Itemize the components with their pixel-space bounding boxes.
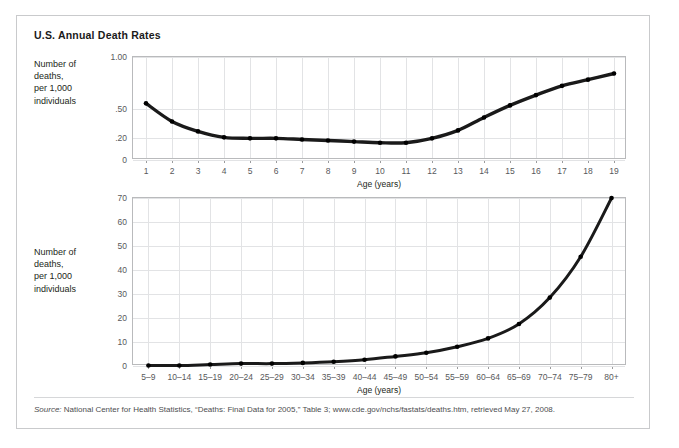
- x-tick-label: 30–34: [291, 372, 315, 382]
- x-tick-label: 6: [274, 166, 279, 176]
- data-point-marker: [393, 354, 398, 359]
- data-point-marker: [362, 357, 367, 362]
- data-point-marker: [609, 196, 614, 201]
- x-tick-label: 10–14: [167, 372, 191, 382]
- x-tick-label: 60–64: [476, 372, 500, 382]
- x-tick-label: 45–49: [384, 372, 408, 382]
- data-point-marker: [331, 359, 336, 364]
- data-point-marker: [301, 361, 306, 366]
- data-point-marker: [586, 77, 591, 82]
- x-axis-title-bottom: Age (years): [132, 385, 626, 395]
- y-tick-label: 20: [93, 313, 127, 323]
- data-point-marker: [486, 336, 491, 341]
- y-tick-label: 0: [93, 361, 127, 371]
- data-point-marker: [146, 363, 151, 368]
- data-point-marker: [170, 119, 175, 124]
- x-tick-label: 35–39: [322, 372, 346, 382]
- data-point-marker: [560, 84, 565, 89]
- x-tick-label: 55–59: [445, 372, 469, 382]
- data-point-marker: [455, 345, 460, 350]
- x-tick-label: 5: [248, 166, 253, 176]
- caption-line: per 1,000: [34, 82, 120, 94]
- plot-area-top: 123456789101112131415161718191.00.50.200: [132, 56, 626, 159]
- divider: [34, 397, 634, 398]
- x-tick-label: 7: [300, 166, 305, 176]
- figure-panel: U.S. Annual Death Rates Number ofdeaths,…: [16, 15, 650, 429]
- x-tick-label: 13: [453, 166, 462, 176]
- x-tick-label: 8: [326, 166, 331, 176]
- y-tick-label: 10: [93, 337, 127, 347]
- data-series-line: [133, 57, 627, 160]
- y-tick-label: 70: [93, 193, 127, 203]
- data-point-marker: [274, 136, 279, 141]
- source-label: Source:: [34, 405, 62, 414]
- x-tick-label: 5–9: [141, 372, 155, 382]
- plot-area-bottom: 5–910–1415–1920–2425–2930–3435–3940–4445…: [132, 197, 626, 365]
- data-point-marker: [239, 361, 244, 366]
- data-point-marker: [612, 71, 617, 76]
- x-tick-label: 50–54: [414, 372, 438, 382]
- x-axis-title-top: Age (years): [132, 179, 626, 189]
- page-title: U.S. Annual Death Rates: [34, 29, 161, 41]
- x-tick-label: 10: [375, 166, 384, 176]
- x-tick-label: 16: [531, 166, 540, 176]
- x-tick-label: 80+: [604, 372, 618, 382]
- source-text: National Center for Health Statistics, “…: [62, 405, 555, 414]
- data-point-marker: [177, 363, 182, 368]
- x-tick-label: 75–79: [569, 372, 593, 382]
- y-tick-label: 1.00: [93, 52, 127, 62]
- x-tick-label: 4: [222, 166, 227, 176]
- y-tick-label: 0: [93, 155, 127, 165]
- gridline-horizontal: [133, 160, 625, 161]
- y-tick-label: 60: [93, 217, 127, 227]
- data-point-marker: [208, 362, 213, 367]
- data-point-marker: [300, 137, 305, 142]
- x-tick-label: 65–69: [507, 372, 531, 382]
- x-tick-label: 11: [402, 166, 411, 176]
- data-point-marker: [424, 351, 429, 356]
- y-tick-label: 30: [93, 289, 127, 299]
- x-tick-label: 20–24: [229, 372, 253, 382]
- source-note: Source: National Center for Health Stati…: [34, 405, 555, 414]
- data-point-marker: [144, 101, 149, 106]
- x-tick-label: 18: [583, 166, 592, 176]
- data-point-marker: [534, 93, 539, 98]
- x-tick-label: 17: [557, 166, 566, 176]
- data-point-marker: [196, 129, 201, 134]
- x-tick-label: 14: [479, 166, 488, 176]
- data-point-marker: [248, 136, 253, 141]
- data-point-marker: [548, 295, 553, 300]
- data-point-marker: [517, 322, 522, 327]
- x-tick-label: 40–44: [353, 372, 377, 382]
- x-tick-label: 9: [352, 166, 357, 176]
- y-tick-label: 50: [93, 241, 127, 251]
- y-axis-caption-top: Number ofdeaths,per 1,000individuals: [34, 58, 120, 107]
- data-point-marker: [430, 136, 435, 141]
- data-point-marker: [404, 140, 409, 145]
- x-tick-label: 1: [144, 166, 149, 176]
- data-point-marker: [270, 361, 275, 366]
- data-point-marker: [482, 115, 487, 120]
- x-tick-label: 2: [170, 166, 175, 176]
- x-tick-label: 3: [196, 166, 201, 176]
- data-point-marker: [508, 103, 513, 108]
- x-tick-label: 15: [505, 166, 514, 176]
- x-tick-label: 15–19: [198, 372, 222, 382]
- y-tick-label: 40: [93, 265, 127, 275]
- caption-line: deaths,: [34, 70, 120, 82]
- data-point-marker: [578, 255, 583, 260]
- y-tick-label: .50: [93, 104, 127, 114]
- data-series-line: [133, 198, 627, 366]
- x-tick-label: 25–29: [260, 372, 284, 382]
- data-point-marker: [326, 138, 331, 143]
- y-tick-label: .20: [93, 133, 127, 143]
- data-point-marker: [352, 139, 357, 144]
- x-tick-label: 19: [609, 166, 618, 176]
- data-point-marker: [222, 135, 227, 140]
- x-tick-label: 12: [427, 166, 436, 176]
- data-point-marker: [378, 140, 383, 145]
- x-tick-label: 70–74: [538, 372, 562, 382]
- data-point-marker: [456, 128, 461, 133]
